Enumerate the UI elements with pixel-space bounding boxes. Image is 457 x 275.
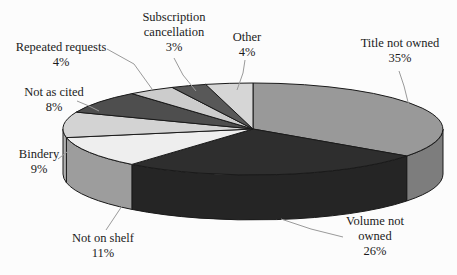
slice-label-title-not-owned: Title not owned 35%: [345, 36, 455, 66]
slice-label-volume-not-owned: Volume not owned 26%: [335, 214, 415, 259]
slice-label-repeated-requests: Repeated requests 4%: [1, 40, 121, 70]
slice-label-text: Repeated requests: [1, 40, 121, 55]
slice-value-text: 3%: [132, 40, 216, 55]
slice-label-other: Other 4%: [217, 30, 277, 60]
slice-value-text: 4%: [217, 45, 277, 60]
slice-label-text: Volume not owned: [335, 214, 415, 244]
slice-value-text: 8%: [9, 100, 99, 115]
slice-label-text: Bindery: [4, 147, 74, 162]
slice-label-text: Other: [217, 30, 277, 45]
slice-value-text: 35%: [345, 51, 455, 66]
pie-chart-figure: Title not owned 35% Volume not owned 26%…: [0, 0, 457, 275]
slice-value-text: 4%: [1, 55, 121, 70]
slice-label-bindery: Bindery 9%: [4, 147, 74, 177]
slice-label-text: Not as cited: [9, 85, 99, 100]
slice-value-text: 26%: [335, 244, 415, 259]
slice-value-text: 11%: [58, 246, 148, 261]
slice-label-text: Title not owned: [345, 36, 455, 51]
leader-line-volume-not-owned: [281, 219, 343, 237]
slice-label-not-as-cited: Not as cited 8%: [9, 85, 99, 115]
slice-label-subscription-cancellation: Subscription cancellation 3%: [132, 10, 216, 55]
leader-line-not-on-shelf: [106, 206, 122, 230]
slice-label-not-on-shelf: Not on shelf 11%: [58, 231, 148, 261]
slice-label-text: Not on shelf: [58, 231, 148, 246]
slice-value-text: 9%: [4, 162, 74, 177]
slice-label-text: Subscription cancellation: [132, 10, 216, 40]
